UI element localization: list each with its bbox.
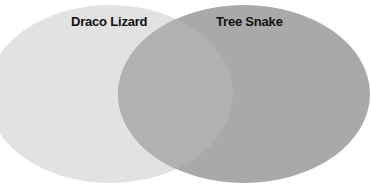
draco-lizard-label: Draco Lizard: [71, 14, 147, 29]
tree-snake-label: Tree Snake: [216, 14, 283, 29]
venn-diagram: Draco Lizard Tree Snake: [0, 0, 371, 187]
venn-canvas: [0, 0, 371, 187]
